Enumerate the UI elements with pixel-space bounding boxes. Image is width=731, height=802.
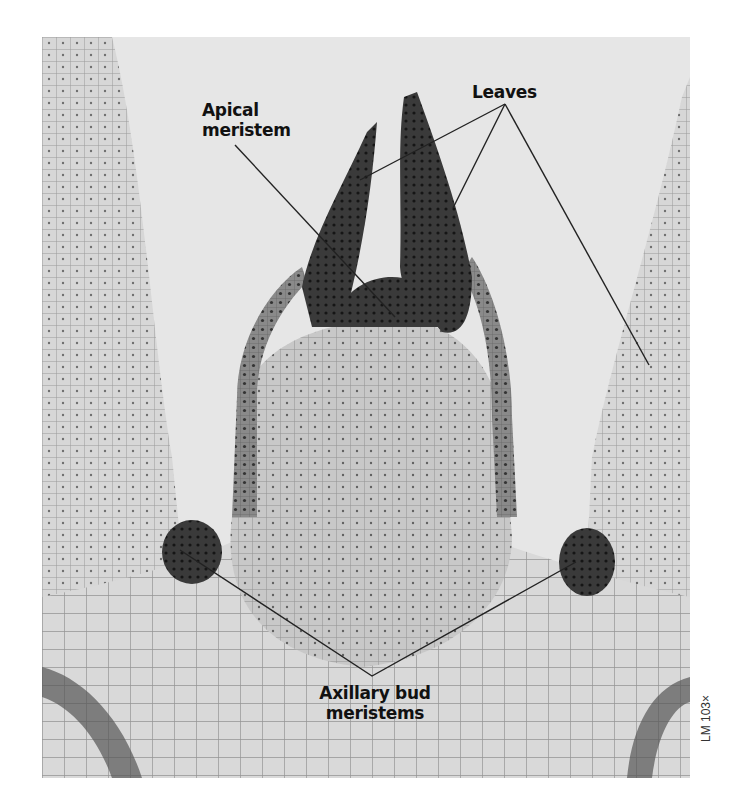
- leaves-leader-2: [453, 104, 505, 208]
- axillary-bud-meristems-label: Axillary bud meristems: [300, 683, 450, 723]
- magnification-label: LM 103×: [699, 695, 713, 742]
- leaves-leader-1: [360, 104, 505, 180]
- axillary-bud-leader: [180, 550, 576, 676]
- apical-meristem-label-line1: Apical: [202, 100, 291, 120]
- apical-meristem-leader: [235, 145, 395, 317]
- annotation-overlay: Apical meristem Leaves Axillary bud meri…: [0, 0, 731, 802]
- leaves-leader-3: [505, 104, 649, 365]
- leaves-label: Leaves: [472, 82, 537, 102]
- leader-lines: [0, 0, 731, 802]
- axillary-label-line1: Axillary bud: [300, 683, 450, 703]
- axillary-label-line2: meristems: [300, 703, 450, 723]
- apical-meristem-label-line2: meristem: [202, 120, 291, 140]
- apical-meristem-label: Apical meristem: [202, 100, 291, 140]
